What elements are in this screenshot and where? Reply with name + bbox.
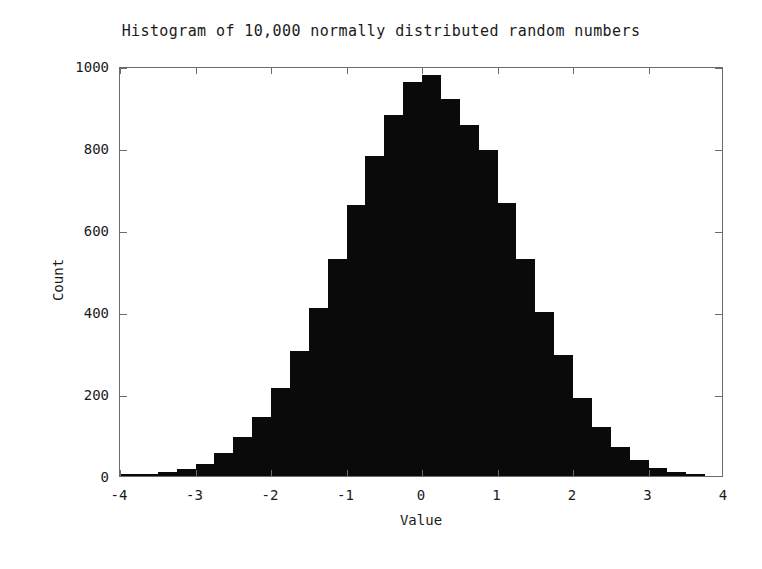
x-tick-mark xyxy=(347,470,348,476)
x-tick-mark xyxy=(120,470,121,476)
histogram-bar xyxy=(233,437,252,476)
x-axis-label: Value xyxy=(119,512,723,528)
histogram-figure: Histogram of 10,000 normally distributed… xyxy=(0,0,762,569)
y-tick-mark xyxy=(120,150,127,151)
histogram-bar xyxy=(667,472,686,476)
histogram-bar xyxy=(686,474,705,476)
histogram-bar xyxy=(214,453,233,476)
histogram-bar xyxy=(573,398,592,476)
x-tick-mark xyxy=(498,470,499,476)
plot-area xyxy=(119,67,723,477)
x-tick-mark-top xyxy=(498,68,499,74)
y-tick-mark-right xyxy=(715,232,722,233)
histogram-bar xyxy=(479,150,498,476)
y-tick-mark xyxy=(120,396,127,397)
y-tick-label: 200 xyxy=(9,387,109,403)
histogram-bar xyxy=(554,355,573,476)
histogram-bar xyxy=(460,125,479,476)
y-tick-mark-right xyxy=(715,150,722,151)
x-tick-mark xyxy=(196,470,197,476)
x-tick-label: 4 xyxy=(719,487,727,503)
x-tick-mark-top xyxy=(271,68,272,74)
histogram-bar xyxy=(535,312,554,476)
x-tick-label: -3 xyxy=(186,487,203,503)
histogram-bar xyxy=(196,464,215,476)
x-tick-mark-top xyxy=(649,68,650,74)
histogram-bar xyxy=(403,82,422,476)
histogram-bars xyxy=(120,68,722,476)
y-tick-mark-right xyxy=(715,68,722,69)
y-tick-mark-right xyxy=(715,314,722,315)
y-tick-label: 1000 xyxy=(9,59,109,75)
histogram-bar xyxy=(139,474,158,476)
x-tick-label: -1 xyxy=(337,487,354,503)
histogram-bar xyxy=(441,99,460,476)
page-title: Histogram of 10,000 normally distributed… xyxy=(0,22,762,40)
y-tick-mark-right xyxy=(715,396,722,397)
x-tick-label: -4 xyxy=(111,487,128,503)
histogram-bar xyxy=(177,469,196,476)
histogram-bar xyxy=(516,259,535,476)
histogram-bar xyxy=(592,427,611,476)
histogram-bar xyxy=(498,203,517,476)
histogram-bar xyxy=(649,468,668,476)
x-tick-label: -2 xyxy=(262,487,279,503)
x-tick-mark xyxy=(573,470,574,476)
y-tick-label: 0 xyxy=(9,469,109,485)
histogram-bar xyxy=(328,259,347,476)
histogram-bar xyxy=(271,388,290,476)
histogram-bar xyxy=(252,417,271,476)
histogram-bar xyxy=(630,460,649,476)
histogram-bar xyxy=(347,205,366,476)
histogram-bar xyxy=(290,351,309,476)
histogram-bar xyxy=(384,115,403,476)
x-tick-mark-top xyxy=(422,68,423,74)
x-tick-label: 2 xyxy=(568,487,576,503)
histogram-bar xyxy=(158,472,177,476)
histogram-bar xyxy=(365,156,384,476)
x-tick-label: 0 xyxy=(417,487,425,503)
x-tick-mark-top xyxy=(196,68,197,74)
x-tick-mark-top xyxy=(573,68,574,74)
y-tick-mark xyxy=(120,232,127,233)
y-tick-mark xyxy=(120,314,127,315)
x-tick-mark xyxy=(649,470,650,476)
x-tick-mark xyxy=(271,470,272,476)
y-axis-label: Count xyxy=(50,220,66,340)
histogram-bar xyxy=(422,75,441,476)
x-tick-mark-top xyxy=(347,68,348,74)
histogram-bar xyxy=(120,474,139,476)
y-tick-mark xyxy=(120,68,127,69)
x-tick-mark xyxy=(422,470,423,476)
histogram-bar xyxy=(611,447,630,476)
histogram-bar xyxy=(309,308,328,476)
y-tick-label: 800 xyxy=(9,141,109,157)
x-tick-label: 1 xyxy=(492,487,500,503)
x-tick-label: 3 xyxy=(643,487,651,503)
